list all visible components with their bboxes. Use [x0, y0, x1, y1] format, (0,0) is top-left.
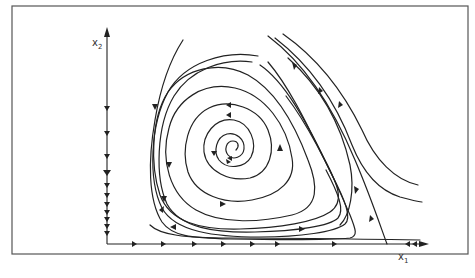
inner-spiral — [154, 65, 339, 229]
right-trajectory-3 — [288, 58, 352, 225]
outer-arrow-icon — [170, 224, 176, 230]
spiral-arrow-icon — [226, 112, 231, 118]
spiral-trajectories — [154, 65, 339, 232]
right-side-trajectories — [268, 34, 422, 244]
y-axis-arrowhead-icon — [104, 27, 110, 37]
x-axis-arrowhead-icon — [419, 241, 429, 247]
spiral-arrow-icon — [277, 144, 283, 151]
spiral-arrow-icon — [226, 102, 231, 108]
x-axis-label: x1 — [398, 251, 408, 265]
right-arrow-icon — [338, 101, 343, 108]
outer-trajectory-2 — [159, 61, 341, 232]
right-arrow-icon — [354, 186, 359, 194]
phase-portrait-figure: x2 x1 — [0, 0, 475, 278]
y-axis-label: x2 — [92, 37, 102, 51]
right-arrow-icon — [369, 215, 374, 222]
right-arrow-icon — [292, 62, 297, 70]
right-trajectory-2 — [283, 34, 418, 185]
lower-trajectory — [150, 225, 420, 240]
separatrix-trajectory — [268, 36, 387, 244]
figure-frame — [12, 6, 468, 254]
spiral-arrow-icon — [220, 201, 226, 207]
